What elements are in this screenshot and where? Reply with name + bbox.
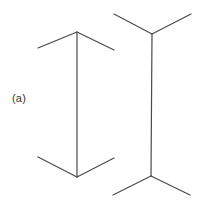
right-figure-shaft — [151, 34, 152, 176]
left-figure-top-left-fin — [38, 32, 77, 48]
panel-label: (a) — [12, 91, 26, 105]
right-figure-bottom-left-fin — [113, 176, 151, 195]
left-figure-arrowheads-inward — [38, 32, 114, 177]
left-figure-top-right-fin — [77, 32, 114, 50]
left-figure-bottom-left-fin — [38, 157, 77, 177]
figure-panel: (a) — [0, 0, 211, 205]
right-figure-bottom-right-fin — [151, 176, 190, 195]
right-figure-top-right-fin — [152, 14, 191, 34]
muller-lyer-diagram — [0, 0, 211, 205]
right-figure-top-left-fin — [114, 14, 152, 34]
left-figure-bottom-right-fin — [77, 158, 114, 177]
right-figure-arrowheads-outward — [113, 14, 191, 195]
